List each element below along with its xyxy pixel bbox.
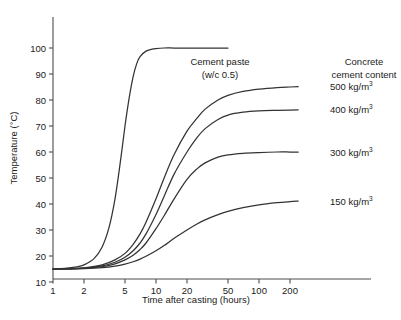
chart-figure: 102030405060708090100 125102050100200 Te… — [0, 0, 401, 320]
y-tick-label: 20 — [35, 251, 46, 262]
x-tick-label: 100 — [251, 285, 267, 296]
x-axis-title: Time after casting (hours) — [142, 294, 250, 305]
legend-item-superscript: 3 — [369, 146, 373, 153]
cement-paste-annotation: Cement paste (w/c 0.5) — [190, 56, 249, 80]
legend-title-line1: Concrete — [345, 56, 384, 67]
curve-cement-paste-w-c-0-5- — [53, 48, 228, 269]
legend-item-superscript: 3 — [369, 103, 373, 110]
y-tick-label: 60 — [35, 147, 46, 158]
y-tick-label: 70 — [35, 121, 46, 132]
legend-item-label: 500 kg/m3 — [330, 80, 373, 92]
legend-item-300: 300 kg/m3 — [330, 146, 373, 158]
legend-item-label: 400 kg/m3 — [330, 103, 373, 115]
y-axis-title: Temperature (°C) — [8, 112, 19, 185]
temperature-vs-time-chart: 102030405060708090100 125102050100200 Te… — [0, 0, 401, 320]
x-tick-label: 2 — [81, 285, 86, 296]
data-curves-group — [53, 48, 298, 269]
legend-item-superscript: 3 — [369, 80, 373, 87]
legend-item-label: 300 kg/m3 — [330, 146, 373, 158]
y-tick-label: 90 — [35, 69, 46, 80]
y-tick-label: 100 — [30, 43, 46, 54]
legend: Concrete cement content 500 kg/m3400 kg/… — [330, 56, 397, 207]
curve-150-kg-m3 — [53, 201, 298, 269]
cement-paste-label-line1: Cement paste — [190, 56, 249, 67]
y-tick-label: 50 — [35, 173, 46, 184]
curve-400-kg-m3 — [53, 110, 298, 269]
legend-item-label: 150 kg/m3 — [330, 195, 373, 207]
legend-item-400: 400 kg/m3 — [330, 103, 373, 115]
curve-500-kg-m3 — [53, 87, 298, 269]
y-tick-label: 10 — [35, 277, 46, 288]
legend-item-superscript: 3 — [369, 195, 373, 202]
x-tick-label: 5 — [122, 285, 127, 296]
cement-paste-label-line2: (w/c 0.5) — [202, 69, 238, 80]
legend-title-line2: cement content — [332, 69, 397, 80]
y-tick-label: 30 — [35, 225, 46, 236]
y-tick-label: 80 — [35, 95, 46, 106]
legend-item-500: 500 kg/m3 — [330, 80, 373, 92]
y-tick-label: 40 — [35, 199, 46, 210]
x-tick-label: 1 — [50, 285, 55, 296]
curve-300-kg-m3 — [53, 152, 298, 269]
x-tick-label: 200 — [282, 285, 298, 296]
y-axis-ticks: 102030405060708090100 — [30, 43, 53, 288]
legend-items-group: 500 kg/m3400 kg/m3300 kg/m3150 kg/m3 — [330, 80, 373, 206]
legend-item-150: 150 kg/m3 — [330, 195, 373, 207]
